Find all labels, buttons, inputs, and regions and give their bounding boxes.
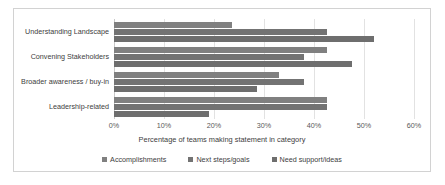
category-axis-labels: Understanding LandscapeConvening Stakeho… — [0, 19, 109, 119]
legend-swatch-icon — [188, 157, 193, 162]
category-label: Convening Stakeholders — [0, 52, 109, 61]
bar[interactable] — [114, 72, 279, 78]
category-label: Broader awareness / buy-in — [0, 77, 109, 86]
legend-item[interactable]: Need support/ideas — [272, 155, 342, 164]
bar[interactable] — [114, 61, 352, 67]
gridline-60pct — [414, 19, 415, 119]
bar[interactable] — [114, 54, 304, 60]
bar[interactable] — [114, 97, 327, 103]
bar[interactable] — [114, 22, 232, 28]
x-tick-label: 10% — [157, 121, 171, 130]
x-axis-title: Percentage of teams making statement in … — [14, 135, 430, 144]
legend-label: Next steps/goals — [196, 155, 249, 164]
x-axis-tick-labels: 0%10%20%30%40%50%60% — [114, 121, 414, 133]
legend-item[interactable]: Accomplishments — [102, 155, 166, 164]
bar[interactable] — [114, 86, 257, 92]
legend-label: Accomplishments — [110, 155, 166, 164]
category-bar-group — [114, 22, 414, 42]
category-label: Leadership-related — [0, 102, 109, 111]
bar[interactable] — [114, 47, 327, 53]
bar[interactable] — [114, 104, 327, 110]
bar[interactable] — [114, 36, 374, 42]
bar[interactable] — [114, 79, 304, 85]
x-tick-label: 20% — [207, 121, 221, 130]
chart-legend: AccomplishmentsNext steps/goalsNeed supp… — [14, 155, 430, 164]
category-bar-group — [114, 97, 414, 117]
x-tick-label: 50% — [357, 121, 371, 130]
category-label: Understanding Landscape — [0, 27, 109, 36]
x-tick-label: 60% — [407, 121, 421, 130]
x-tick-label: 30% — [257, 121, 271, 130]
legend-swatch-icon — [102, 157, 107, 162]
bar[interactable] — [114, 111, 209, 117]
legend-label: Need support/ideas — [280, 155, 342, 164]
x-tick-label: 0% — [109, 121, 119, 130]
category-bar-group — [114, 47, 414, 67]
legend-swatch-icon — [272, 157, 277, 162]
x-tick-label: 40% — [307, 121, 321, 130]
legend-item[interactable]: Next steps/goals — [188, 155, 249, 164]
chart-container: Understanding LandscapeConvening Stakeho… — [13, 8, 431, 172]
category-bar-group — [114, 72, 414, 92]
plot-area: Understanding LandscapeConvening Stakeho… — [114, 19, 414, 119]
bar[interactable] — [114, 29, 327, 35]
